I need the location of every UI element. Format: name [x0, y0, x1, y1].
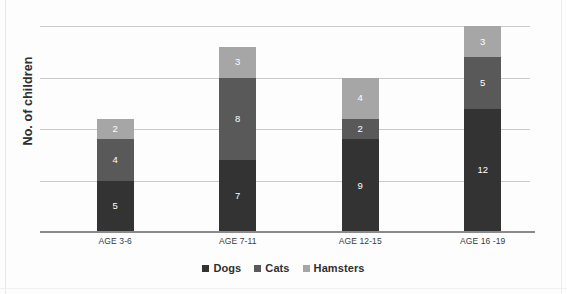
- bar-column[interactable]: 1253: [464, 26, 501, 232]
- bar-segment-dogs[interactable]: 5: [97, 181, 134, 232]
- legend-item-label: Cats: [265, 262, 289, 274]
- bar-column[interactable]: 924: [342, 78, 379, 232]
- legend-swatch-icon: [303, 265, 310, 272]
- legend-item-hamsters[interactable]: Hamsters: [303, 262, 365, 274]
- bar-value-label: 2: [342, 124, 379, 134]
- bar-value-label: 3: [464, 37, 501, 47]
- legend-item-label: Dogs: [213, 262, 241, 274]
- x-axis-tick-label: AGE 16 -19: [438, 236, 528, 246]
- x-axis-tick-label: AGE 12-15: [315, 236, 405, 246]
- y-gridline: [40, 26, 530, 27]
- bar-segment-dogs[interactable]: 12: [464, 109, 501, 232]
- x-axis-tick-labels: AGE 3-6 AGE 7-11 AGE 12-15 AGE 16 -19: [40, 236, 530, 254]
- stacked-bar-chart: No. of children 5427839241253 AGE 3-6 AG…: [0, 0, 567, 294]
- bar-segment-hamsters[interactable]: 3: [219, 47, 256, 78]
- bar-segment-dogs[interactable]: 9: [342, 139, 379, 232]
- bar-value-label: 4: [342, 94, 379, 104]
- bar-value-label: 5: [464, 78, 501, 88]
- bar-value-label: 5: [97, 202, 134, 212]
- legend-item-cats[interactable]: Cats: [254, 262, 289, 274]
- bar-value-label: 8: [219, 114, 256, 124]
- bar-segment-hamsters[interactable]: 4: [342, 78, 379, 119]
- legend-swatch-icon: [254, 265, 261, 272]
- bar-value-label: 2: [97, 124, 134, 134]
- bar-segment-hamsters[interactable]: 3: [464, 26, 501, 57]
- plot-area: 5427839241253: [40, 16, 530, 232]
- x-axis-line: [40, 231, 535, 233]
- bar-value-label: 12: [464, 166, 501, 176]
- bar-column[interactable]: 542: [97, 119, 134, 232]
- legend-item-dogs[interactable]: Dogs: [202, 262, 241, 274]
- bar-value-label: 9: [342, 181, 379, 191]
- page-frame-right-edge: [561, 0, 562, 294]
- x-axis-tick-label: AGE 3-6: [70, 236, 160, 246]
- bar-segment-hamsters[interactable]: 2: [97, 119, 134, 140]
- x-axis-tick-label: AGE 7-11: [193, 236, 283, 246]
- bar-segment-cats[interactable]: 2: [342, 119, 379, 140]
- bar-segment-dogs[interactable]: 7: [219, 160, 256, 232]
- page-frame-bottom-edge: [0, 288, 567, 289]
- y-axis-title: No. of children: [21, 11, 35, 191]
- bar-value-label: 4: [97, 155, 134, 165]
- bar-value-label: 7: [219, 191, 256, 201]
- y-gridline: [40, 78, 530, 79]
- legend-item-label: Hamsters: [314, 262, 365, 274]
- legend-swatch-icon: [202, 265, 209, 272]
- bar-segment-cats[interactable]: 5: [464, 57, 501, 108]
- bar-value-label: 3: [219, 58, 256, 68]
- page-frame-left-edge: [5, 0, 6, 294]
- bar-segment-cats[interactable]: 4: [97, 139, 134, 180]
- bar-column[interactable]: 783: [219, 47, 256, 232]
- bar-segment-cats[interactable]: 8: [219, 78, 256, 160]
- chart-legend: Dogs Cats Hamsters: [0, 262, 567, 274]
